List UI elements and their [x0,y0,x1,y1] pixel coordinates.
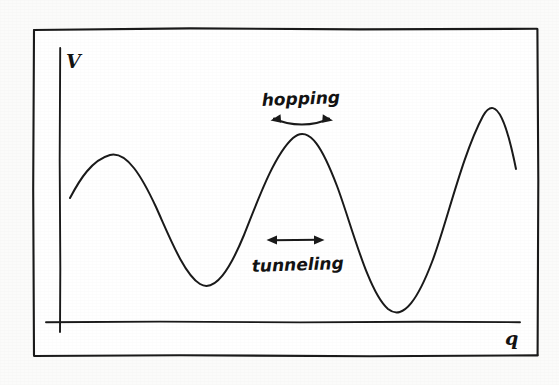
tunneling-label: tunneling [251,253,344,276]
v-axis [60,48,61,332]
figure-panel [33,29,538,356]
figure-container: V q hopping tunneling [0,0,559,385]
y-axis-label: V [66,50,83,72]
potential-diagram: V q hopping tunneling [0,0,559,385]
x-axis-label: q [505,327,518,349]
hopping-label: hopping [261,87,340,110]
q-axis [46,322,520,323]
